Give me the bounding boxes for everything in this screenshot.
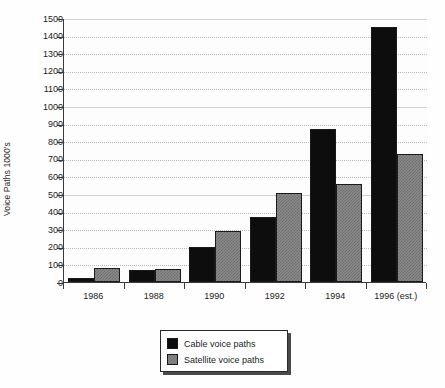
bar-satellite[interactable] — [276, 193, 302, 282]
bar-group — [310, 18, 362, 282]
x-tick-label: 1990 — [184, 291, 245, 301]
x-tick-mark — [426, 283, 427, 289]
legend-label-cable: Cable voice paths — [184, 339, 256, 349]
bar-cable[interactable] — [250, 217, 276, 282]
x-tick-mark — [305, 283, 306, 289]
bar-satellite[interactable] — [397, 154, 423, 282]
legend-swatch-satellite-icon — [167, 354, 178, 365]
bar-cable[interactable] — [129, 270, 155, 282]
x-tick-label: 1996 (est.) — [366, 291, 427, 301]
x-tick-mark — [366, 283, 367, 289]
bar-cable[interactable] — [371, 27, 397, 282]
bar-group — [68, 18, 120, 282]
plot-area — [63, 19, 426, 283]
x-tick-label: 1992 — [245, 291, 306, 301]
chart-legend: Cable voice paths Satellite voice paths — [160, 330, 288, 372]
bar-group — [129, 18, 181, 282]
bar-group — [371, 18, 423, 282]
legend-swatch-cable-icon — [167, 338, 178, 349]
x-tick-label: 1988 — [124, 291, 185, 301]
legend-item-satellite[interactable]: Satellite voice paths — [167, 352, 281, 367]
bar-satellite[interactable] — [336, 184, 362, 282]
bar-chart-figure: Voice Paths 1000's 010020030040050060070… — [0, 0, 445, 388]
bar-cable[interactable] — [310, 129, 336, 282]
x-tick-mark — [184, 283, 185, 289]
legend-label-satellite: Satellite voice paths — [184, 355, 264, 365]
bar-group — [189, 18, 241, 282]
x-tick-label: 1994 — [305, 291, 366, 301]
bar-satellite[interactable] — [94, 268, 120, 282]
x-tick-label: 1986 — [63, 291, 124, 301]
legend-item-cable[interactable]: Cable voice paths — [167, 336, 281, 351]
x-tick-mark — [63, 283, 64, 289]
bar-cable[interactable] — [68, 278, 94, 282]
bar-group — [250, 18, 302, 282]
x-tick-mark — [245, 283, 246, 289]
bar-satellite[interactable] — [215, 231, 241, 282]
bar-satellite[interactable] — [155, 269, 181, 282]
bar-cable[interactable] — [189, 247, 215, 282]
y-axis-ticks: 0100200300400500600700800900100011001200… — [0, 0, 63, 300]
x-tick-mark — [124, 283, 125, 289]
